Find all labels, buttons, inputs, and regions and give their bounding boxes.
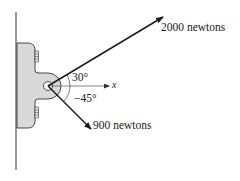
- angle-arc-30: [67, 75, 70, 86]
- bolt-top-icon: [35, 51, 39, 62]
- bracket: [17, 43, 61, 128]
- force-label-900: 900 newtons: [93, 120, 151, 132]
- angle-label-neg45: −45°: [74, 93, 97, 105]
- force-vector-2000: [48, 17, 163, 86]
- x-axis-label: x: [112, 80, 116, 90]
- bolt-bottom-icon: [35, 107, 39, 118]
- angle-label-30: 30°: [72, 72, 88, 84]
- angle-arc-neg45: [64, 86, 70, 102]
- force-label-2000: 2000 newtons: [161, 22, 225, 34]
